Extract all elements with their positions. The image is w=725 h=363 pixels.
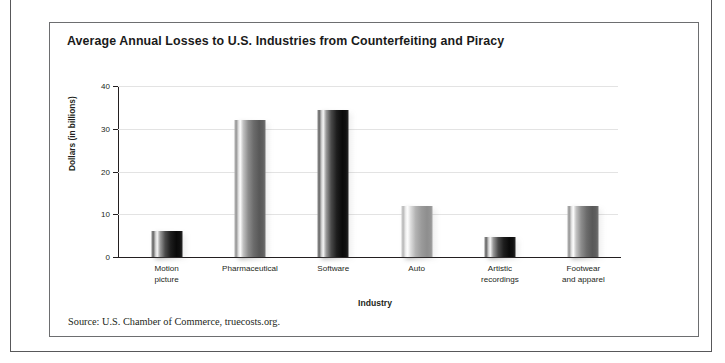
y-axis-label: Dollars (in billions) bbox=[67, 96, 77, 171]
x-tick-line: Auto bbox=[375, 264, 458, 275]
x-tick-label: Artisticrecordings bbox=[458, 264, 541, 285]
bar[interactable] bbox=[484, 237, 515, 257]
bar-group: Pharmaceutical bbox=[208, 86, 291, 257]
x-tick-line: picture bbox=[125, 275, 208, 286]
bar-body bbox=[484, 237, 515, 257]
bar-group: Auto bbox=[375, 86, 458, 257]
x-tick-label: Auto bbox=[375, 264, 458, 275]
plot-area: 010203040 MotionpicturePharmaceuticalSof… bbox=[118, 86, 618, 257]
x-tick-line: recordings bbox=[458, 275, 541, 286]
bar[interactable] bbox=[234, 120, 265, 257]
y-tick-label: 20 bbox=[101, 167, 110, 176]
x-tick-line: and apparel bbox=[542, 275, 625, 286]
x-axis-line bbox=[118, 257, 621, 258]
x-tick-label: Pharmaceutical bbox=[208, 264, 291, 275]
x-tick-line: Artistic bbox=[458, 264, 541, 275]
x-tick-label: Motionpicture bbox=[125, 264, 208, 285]
x-tick-label: Footwearand apparel bbox=[542, 264, 625, 285]
page-frame: Average Annual Losses to U.S. Industries… bbox=[10, 0, 712, 352]
bar[interactable] bbox=[568, 206, 599, 257]
x-tick-line: Pharmaceutical bbox=[208, 264, 291, 275]
y-tick-mark bbox=[113, 129, 118, 130]
figure-container: Average Annual Losses to U.S. Industries… bbox=[49, 22, 699, 337]
y-tick-label: 10 bbox=[101, 210, 110, 219]
bar[interactable] bbox=[318, 110, 349, 257]
y-tick-mark bbox=[113, 257, 118, 258]
bar-body bbox=[151, 231, 182, 257]
bar-body bbox=[318, 110, 349, 257]
x-tick-line: Footwear bbox=[542, 264, 625, 275]
y-tick-mark bbox=[113, 214, 118, 215]
bar-group: Motionpicture bbox=[125, 86, 208, 257]
bar-group: Artisticrecordings bbox=[458, 86, 541, 257]
y-tick-label: 40 bbox=[101, 82, 110, 91]
x-tick-label: Software bbox=[292, 264, 375, 275]
source-note: Source: U.S. Chamber of Commerce, trueco… bbox=[68, 316, 280, 327]
bar[interactable] bbox=[151, 231, 182, 257]
y-tick-mark bbox=[113, 86, 118, 87]
x-tick-line: Motion bbox=[125, 264, 208, 275]
bar-group: Software bbox=[292, 86, 375, 257]
bar[interactable] bbox=[401, 206, 432, 257]
bar-group: Footwearand apparel bbox=[542, 86, 625, 257]
y-tick-mark bbox=[113, 172, 118, 173]
y-tick-label: 30 bbox=[101, 124, 110, 133]
bar-body bbox=[401, 206, 432, 257]
chart-title: Average Annual Losses to U.S. Industries… bbox=[67, 34, 504, 48]
bar-body bbox=[568, 206, 599, 257]
bar-body bbox=[234, 120, 265, 257]
y-tick-label: 0 bbox=[106, 253, 110, 262]
x-tick-line: Software bbox=[292, 264, 375, 275]
x-axis-label: Industry bbox=[50, 298, 700, 308]
